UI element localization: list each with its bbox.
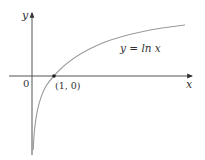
point-label: (1, 0) [55,80,81,91]
origin-label: 0 [23,78,29,89]
ln-graph: y x 0 (1, 0) y = ln x [0,0,205,160]
curve-label: y = ln x [119,42,161,54]
y-axis-label: y [21,9,29,22]
curve-label-text: y = ln x [119,42,161,54]
x-axis-label: x [186,78,193,91]
point-marker [52,74,56,78]
